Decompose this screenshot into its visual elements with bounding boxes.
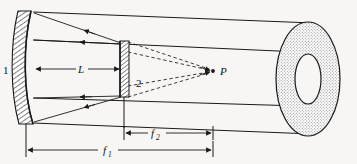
ray-lower-inner (34, 96, 121, 98)
ray-upper-inner-arrowhead (80, 42, 92, 43)
label-f1-subscript: 1 (108, 150, 112, 159)
ray-lower-outer-arrowhead (84, 105, 95, 108)
ray-upper-outer (34, 13, 121, 43)
flat-mirror-2 (120, 41, 129, 128)
label-f2: f 2 (151, 127, 160, 142)
tube-edge-lower-inner (33, 98, 300, 106)
ray-upper-inner (34, 40, 121, 44)
annulus-inner-ellipse (295, 54, 321, 104)
cylindrical-tube (33, 12, 313, 134)
label-mirror-1: 1 (3, 64, 9, 76)
ray-upper-outer-arrowhead (84, 30, 95, 34)
label-point-p: P (219, 65, 227, 77)
label-separation-L: L (77, 63, 84, 75)
concave-mirror-1 (12, 11, 33, 143)
label-f1: f 1 (103, 144, 112, 159)
optical-ray-diagram-figure: 1 L 2 P f 2 f 1 (0, 0, 357, 164)
tube-edge-bottom (33, 123, 313, 134)
mirror1-body (12, 11, 33, 124)
label-f2-subscript: 2 (156, 133, 160, 142)
dashed-ray-upper-mid (128, 52, 209, 70)
mirror2-body (120, 41, 129, 97)
ray-lower-outer (34, 97, 121, 122)
dimension-f1 (26, 141, 213, 157)
label-mirror-2: 2 (136, 77, 142, 89)
tube-edge-top (33, 12, 313, 23)
focal-point-p-dot (211, 69, 215, 73)
diagram-canvas: 1 L 2 P f 2 f 1 (0, 0, 357, 164)
annular-aperture (276, 22, 340, 136)
